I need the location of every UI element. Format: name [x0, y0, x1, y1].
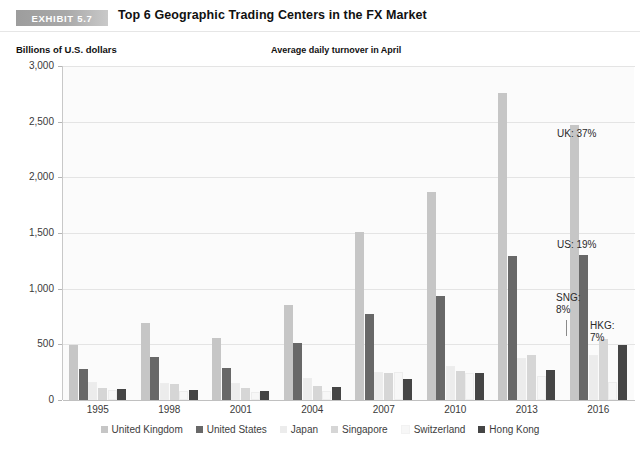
- x-axis-label-1998: 1998: [139, 404, 199, 415]
- bar-united-states-2004: [293, 343, 302, 400]
- bar-united-kingdom-2016: [570, 125, 579, 400]
- y-axis-tick-label: 1,500: [8, 227, 54, 238]
- header-divider: [0, 31, 640, 32]
- y-axis-tick-mark: [58, 177, 62, 178]
- bar-united-states-1998: [150, 357, 159, 400]
- x-axis-label-2001: 2001: [211, 404, 271, 415]
- bar-group-2010: [427, 66, 484, 400]
- annotation-hkg: HKG: 7%: [590, 320, 614, 344]
- bar-singapore-2004: [313, 386, 322, 400]
- bar-group-2004: [284, 66, 341, 400]
- bar-japan-2010: [446, 366, 455, 401]
- chart-subtitle: Average daily turnover in April: [271, 45, 401, 55]
- legend-item-japan[interactable]: Japan: [280, 424, 318, 435]
- legend-item-united-states[interactable]: United States: [196, 424, 267, 435]
- bar-switzerland-2010: [465, 373, 474, 400]
- x-axis-label-1995: 1995: [68, 404, 128, 415]
- bar-singapore-1995: [98, 388, 107, 400]
- y-axis-tick-mark: [58, 289, 62, 290]
- legend-swatch-icon: [331, 426, 338, 433]
- legend-swatch-icon: [101, 426, 108, 433]
- legend-label: United Kingdom: [112, 424, 183, 435]
- bar-hong-kong-2001: [260, 391, 269, 400]
- gridline-0: [63, 400, 635, 401]
- bar-united-kingdom-2013: [498, 93, 507, 400]
- bar-group-1998: [141, 66, 198, 400]
- bar-singapore-1998: [170, 384, 179, 400]
- bar-singapore-2001: [241, 388, 250, 400]
- legend-label: United States: [207, 424, 267, 435]
- bar-united-kingdom-2010: [427, 192, 436, 400]
- page-title: Top 6 Geographic Trading Centers in the …: [118, 8, 427, 22]
- y-axis-tick-mark: [58, 66, 62, 67]
- bar-hong-kong-2010: [475, 373, 484, 400]
- bar-united-kingdom-1995: [69, 345, 78, 400]
- bar-united-states-2016: [579, 255, 588, 400]
- bar-switzerland-2001: [251, 392, 260, 400]
- y-axis-tick-mark: [58, 233, 62, 234]
- bar-united-kingdom-1998: [141, 323, 150, 400]
- y-axis-tick-mark: [58, 122, 62, 123]
- bar-hong-kong-2007: [403, 379, 412, 400]
- legend-swatch-icon: [401, 425, 410, 434]
- bar-group-2013: [498, 66, 555, 400]
- x-axis-label-2013: 2013: [497, 404, 557, 415]
- x-axis-label-2016: 2016: [568, 404, 628, 415]
- bar-japan-1998: [160, 383, 169, 400]
- bar-united-kingdom-2001: [212, 338, 221, 400]
- bar-hong-kong-2016: [618, 345, 627, 400]
- annotation-leader-line: [566, 320, 567, 336]
- y-axis-unit-label: Billions of U.S. dollars: [16, 44, 117, 55]
- y-axis-tick-label: 2,500: [8, 116, 54, 127]
- bar-singapore-2010: [456, 371, 465, 400]
- bar-japan-2007: [374, 372, 383, 400]
- legend-swatch-icon: [196, 426, 203, 433]
- bar-japan-2013: [517, 358, 526, 400]
- legend-label: Singapore: [342, 424, 388, 435]
- bar-group-2016: [570, 66, 627, 400]
- y-axis-tick-mark: [58, 344, 62, 345]
- x-axis-label-2010: 2010: [425, 404, 485, 415]
- bar-switzerland-1998: [179, 391, 188, 400]
- annotation-us: US: 19%: [557, 239, 596, 251]
- chart-legend: United KingdomUnited StatesJapanSingapor…: [0, 424, 640, 435]
- exhibit-header: EXHIBIT 5.7 Top 6 Geographic Trading Cen…: [0, 8, 640, 30]
- plot-area: [62, 66, 634, 400]
- legend-item-switzerland[interactable]: Switzerland: [401, 424, 466, 435]
- exhibit-badge: EXHIBIT 5.7: [16, 10, 108, 26]
- y-axis-tick-label: 1,000: [8, 283, 54, 294]
- bar-group-1995: [69, 66, 126, 400]
- bar-united-kingdom-2004: [284, 305, 293, 400]
- y-axis-tick-label: 0: [8, 394, 54, 405]
- y-axis-tick-label: 3,000: [8, 60, 54, 71]
- bar-switzerland-2013: [537, 376, 546, 400]
- bar-singapore-2007: [384, 373, 393, 400]
- chart-page: EXHIBIT 5.7 Top 6 Geographic Trading Cen…: [0, 0, 640, 450]
- legend-label: Hong Kong: [489, 424, 539, 435]
- legend-item-singapore[interactable]: Singapore: [331, 424, 388, 435]
- bar-switzerland-1995: [108, 390, 117, 400]
- annotation-uk: UK: 37%: [557, 128, 596, 140]
- bar-japan-2004: [303, 378, 312, 400]
- bar-hong-kong-1998: [189, 390, 198, 400]
- bar-hong-kong-2004: [332, 387, 341, 400]
- bar-united-states-2007: [365, 314, 374, 400]
- bar-hong-kong-2013: [546, 370, 555, 400]
- legend-swatch-icon: [478, 426, 485, 433]
- bar-united-states-2001: [222, 368, 231, 400]
- bar-switzerland-2007: [394, 372, 403, 400]
- y-axis-tick-label: 2,000: [8, 171, 54, 182]
- bar-united-kingdom-2007: [355, 232, 364, 400]
- bar-group-2001: [212, 66, 269, 400]
- legend-item-united-kingdom[interactable]: United Kingdom: [101, 424, 183, 435]
- bar-united-states-1995: [79, 369, 88, 400]
- bar-japan-2001: [231, 383, 240, 400]
- y-axis-tick-mark: [58, 400, 62, 401]
- y-axis-tick-label: 500: [8, 338, 54, 349]
- legend-label: Switzerland: [414, 424, 466, 435]
- bar-singapore-2013: [527, 355, 536, 400]
- x-axis-label-2004: 2004: [282, 404, 342, 415]
- legend-item-hong-kong[interactable]: Hong Kong: [478, 424, 539, 435]
- bar-hong-kong-1995: [117, 389, 126, 400]
- bar-singapore-2016: [599, 339, 608, 400]
